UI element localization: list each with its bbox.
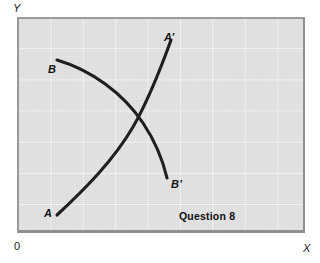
curve-label-a: A [44,208,52,219]
curve-b-to-b-prime [57,60,167,178]
curves-layer [19,19,305,233]
x-axis-label: X [303,243,310,254]
figure-caption: Question 8 [179,210,235,222]
y-axis-label: Y [13,3,20,14]
origin-label: 0 [14,241,20,252]
plot-area: A A’ B B’ Question 8 [17,17,305,233]
question-figure: Y X 0 A A’ B B’ Question 8 [0,0,320,263]
curve-label-a-prime: A’ [164,32,174,43]
curve-label-b-prime: B’ [171,179,182,190]
curve-label-b: B [48,64,56,75]
